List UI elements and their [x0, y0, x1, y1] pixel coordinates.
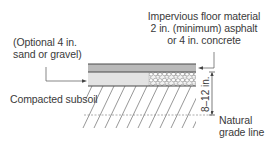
- impervious-label-line3: or 4 in. concrete: [142, 34, 266, 46]
- natural-grade-label: Natural grade line: [219, 114, 264, 138]
- leader-optional: [46, 67, 84, 81]
- optional-base-label-line1: (Optional 4 in.: [13, 36, 82, 48]
- compacted-subsoil-label: Compacted subsoil: [10, 93, 98, 105]
- floor-layer: [88, 64, 196, 72]
- optional-base-label: (Optional 4 in. sand or gravel): [13, 36, 82, 60]
- impervious-label-line2: 2 in. (minimum) asphalt: [142, 22, 266, 34]
- grade-label-line2: grade line: [219, 126, 264, 138]
- optional-base-label-line2: sand or gravel): [13, 48, 82, 60]
- gravel-fill: [149, 72, 196, 86]
- impervious-floor-label: Impervious floor material 2 in. (minimum…: [142, 10, 266, 46]
- dimension-label: 8–12 in.: [200, 76, 211, 112]
- impervious-label-line1: Impervious floor material: [142, 10, 266, 22]
- leader-impervious: [201, 52, 214, 68]
- grade-label-line1: Natural: [219, 114, 264, 126]
